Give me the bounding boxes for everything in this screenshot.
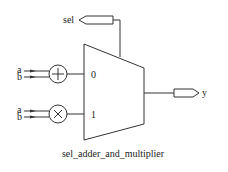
mux[interactable] (84, 44, 144, 140)
mux-input-0-label: 0 (91, 69, 96, 80)
adder[interactable] (49, 65, 67, 83)
multiplier-input-b-label: b (17, 111, 22, 122)
arrow-icon (30, 70, 36, 73)
sel-port[interactable] (79, 16, 113, 24)
arrow-icon (30, 116, 36, 119)
arrow-icon (30, 110, 36, 113)
schematic-diagram: sel 0 1 a b a b y sel_adder_and_multipli… (0, 0, 228, 172)
y-port[interactable] (174, 89, 199, 97)
sel-port-label: sel (63, 14, 74, 25)
arrow-icon (30, 76, 36, 79)
multiplier[interactable] (49, 105, 67, 123)
adder-input-b-label: b (17, 71, 22, 82)
mux-input-1-label: 1 (91, 109, 96, 120)
sel-wire (113, 20, 120, 57)
y-port-label: y (202, 87, 207, 98)
diagram-caption: sel_adder_and_multiplier (62, 148, 165, 159)
